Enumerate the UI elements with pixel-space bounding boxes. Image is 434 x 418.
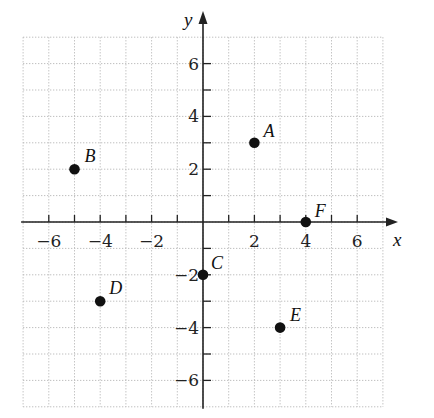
x-tick-label: 4 [300, 231, 311, 251]
point-label: E [289, 305, 301, 325]
y-tick-label: 2 [188, 159, 199, 179]
point-marker-icon [95, 296, 106, 307]
point-marker-icon [69, 164, 80, 175]
y-axis-label: y [182, 9, 193, 30]
y-tick-label: 4 [188, 106, 199, 126]
y-tick-label: 6 [188, 54, 199, 74]
point-marker-icon [275, 322, 286, 333]
x-tick-label: −6 [36, 231, 61, 251]
point-e: E [275, 305, 301, 333]
y-axis-arrow-icon [199, 11, 208, 24]
x-axis-label: x [392, 229, 402, 250]
coordinate-plane: x y −6−4−2246−6−4−2246 ABCDEF [0, 0, 434, 418]
point-c: C [198, 253, 224, 280]
point-a: A [249, 121, 275, 148]
point-b: B [69, 146, 95, 174]
point-marker-icon [198, 270, 209, 281]
x-tick-label: −2 [139, 231, 164, 251]
axes: x y [21, 9, 402, 409]
point-marker-icon [301, 217, 312, 228]
y-tick-label: −6 [174, 370, 199, 390]
y-tick-label: −4 [174, 318, 199, 338]
x-tick-label: −4 [88, 231, 113, 251]
point-f: F [301, 201, 327, 227]
point-label: B [85, 146, 96, 166]
point-marker-icon [249, 138, 260, 149]
point-d: D [95, 278, 122, 306]
point-label: C [211, 253, 224, 273]
x-axis-arrow-icon [386, 218, 398, 227]
point-label: A [262, 121, 275, 141]
x-tick-label: 2 [249, 231, 260, 251]
y-tick-label: −2 [174, 265, 199, 285]
x-tick-label: 6 [352, 231, 363, 251]
point-label: D [108, 278, 122, 298]
point-label: F [314, 201, 327, 221]
